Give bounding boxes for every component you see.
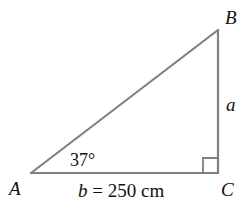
vertex-label-C: C — [221, 179, 234, 200]
triangle-edges — [31, 30, 218, 173]
angle-label-A: 37° — [70, 150, 95, 170]
side-label-a: a — [226, 94, 236, 115]
right-triangle-diagram: A B C a 37° b = 250 cm — [0, 0, 251, 219]
vertex-label-B: B — [225, 7, 237, 28]
right-angle-marker — [203, 158, 218, 173]
side-b-value: = 250 cm — [88, 180, 165, 201]
side-label-b: b = 250 cm — [78, 180, 164, 201]
side-b-variable: b — [78, 180, 88, 201]
hypotenuse-AB — [31, 30, 218, 173]
vertex-label-A: A — [7, 178, 21, 199]
